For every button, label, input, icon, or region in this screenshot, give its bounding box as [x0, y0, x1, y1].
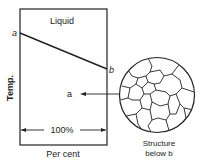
microstructure-circle [120, 58, 195, 135]
liquidus-line [20, 33, 107, 69]
structure-caption-line2: below b [145, 149, 173, 158]
y-axis-label: Temp. [5, 75, 15, 101]
point-a-top-label: a [12, 28, 17, 38]
point-a-region-label: a [67, 89, 72, 99]
structure-caption-line1: Structure [143, 139, 176, 148]
x-axis-label: Per cent [46, 149, 80, 159]
liquid-region-label: Liquid [50, 16, 74, 26]
phase-diagram: Liquid a b a Temp. Per cent 100% [0, 0, 203, 166]
span-label: 100% [50, 125, 73, 135]
point-b-label: b [109, 65, 114, 75]
pointer-arrow [80, 92, 120, 96]
